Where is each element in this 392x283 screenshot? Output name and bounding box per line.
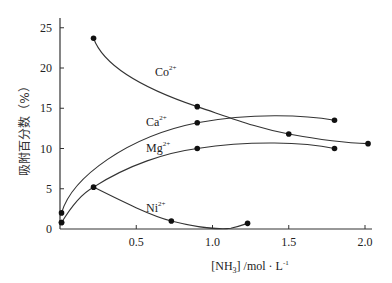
y-tick-label: 15: [40, 101, 52, 115]
y-tick-label: 20: [40, 61, 52, 75]
x-tick-label: 0.5: [129, 235, 144, 249]
y-tick-label: 0: [46, 222, 52, 236]
data-point-mg: [332, 146, 338, 152]
adsorption-chart: 0510152025 0.51.01.52.0 Co2+Ca2+Mg2+Ni2+…: [0, 0, 392, 283]
data-point-co: [91, 35, 97, 41]
y-tick-label: 10: [40, 142, 52, 156]
data-point-ni: [245, 221, 251, 227]
data-point-mg: [194, 146, 200, 152]
data-point-ca: [332, 118, 338, 124]
curves: [62, 38, 369, 228]
series-labels: Co2+Ca2+Mg2+Ni2+: [146, 64, 177, 215]
label-ca: Ca2+: [146, 114, 167, 129]
data-point-co: [286, 131, 292, 137]
data-point-ni: [91, 184, 97, 190]
label-co: Co2+: [155, 64, 177, 79]
data-point-co: [194, 104, 200, 110]
x-tick-label: 1.0: [205, 235, 220, 249]
label-mg: Mg2+: [146, 140, 170, 155]
x-tick-label: 1.5: [281, 235, 296, 249]
axes: [60, 18, 372, 229]
y-axis-label: 吸附百分数（%）: [17, 80, 32, 175]
y-tick-label: 25: [40, 21, 52, 35]
curve-ca: [62, 116, 335, 213]
data-point-ni: [169, 218, 175, 224]
data-point-ca: [194, 120, 200, 126]
data-point-co: [365, 141, 371, 147]
data-point-ni: [59, 220, 65, 226]
data-points: [59, 35, 371, 226]
label-ni: Ni2+: [146, 200, 166, 215]
data-point-ca: [59, 210, 65, 216]
curve-co: [94, 38, 369, 143]
y-tick-label: 5: [46, 182, 52, 196]
x-tick-label: 2.0: [358, 235, 373, 249]
x-axis-label: [NH3] /mol · L-1: [211, 259, 289, 275]
curve-mg: [62, 143, 335, 223]
